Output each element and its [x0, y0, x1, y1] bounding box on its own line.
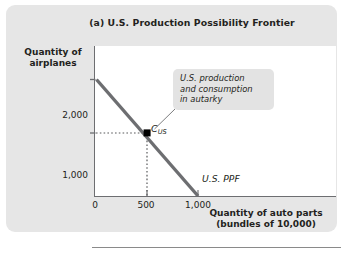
x-tick-label-0: 0 [92, 200, 98, 210]
autarky-point-marker [144, 129, 151, 136]
y-axis-tick-labels: 2,000 1,000 [26, 46, 88, 197]
x-tick-label-500: 500 [137, 200, 154, 210]
autarky-point-label-base: C [151, 123, 158, 134]
autarky-callout-annotation: U.S. production and consumption in autar… [173, 69, 274, 110]
autarky-point-label-subscript: US [158, 128, 167, 136]
bottom-divider-rule [92, 247, 341, 248]
y-tick-label-2000: 2,000 [62, 110, 88, 120]
x-axis-title-line-2: (bundles of 10,000) [190, 219, 342, 230]
x-axis-title-line-1: Quantity of auto parts [190, 208, 342, 219]
y-tick-label-1000: 1,000 [62, 170, 88, 180]
callout-line-1: U.S. production [180, 73, 268, 84]
figure-panel: (a) U.S. Production Possibility Frontier… [6, 5, 337, 232]
autarky-point-label: CUS [151, 123, 167, 134]
x-axis-title: Quantity of auto parts (bundles of 10,00… [190, 208, 342, 229]
ppf-curve-label: U.S. PPF [202, 173, 240, 184]
callout-line-3: in autarky [180, 94, 268, 105]
figure-title: (a) U.S. Production Possibility Frontier [46, 17, 338, 28]
callout-line-2: and consumption [180, 84, 268, 95]
